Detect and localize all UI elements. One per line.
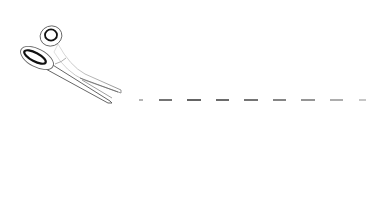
cut-here-illustration bbox=[0, 0, 390, 198]
illustration-canvas bbox=[0, 0, 390, 198]
scissors-icon bbox=[17, 23, 121, 103]
paper-sheet bbox=[122, 9, 373, 193]
